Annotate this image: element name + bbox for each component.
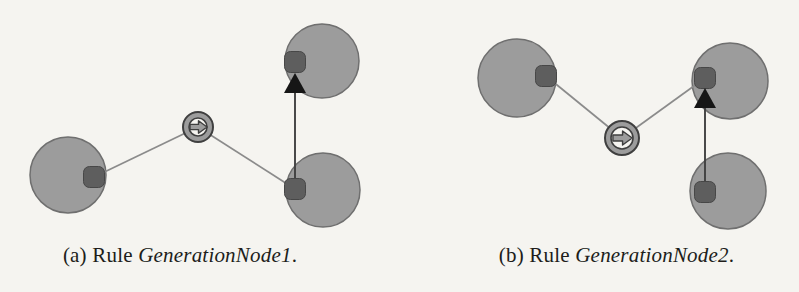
subfigure-b-caption: (b) Rule GenerationNode2. (417, 243, 799, 268)
top-right-node-port (285, 52, 306, 73)
rule-diagram-b (400, 0, 799, 234)
association-edge (94, 127, 198, 177)
association-edge (198, 127, 295, 189)
subfigure-b: (b) Rule GenerationNode2. (400, 0, 799, 268)
caption-b-rule-name: GenerationNode2 (575, 243, 728, 267)
caption-a-rule-name: GenerationNode1 (138, 243, 291, 267)
subfigure-a: (a) Rule GenerationNode1. (0, 0, 400, 268)
bottom-right-node-port (695, 182, 716, 203)
bottom-right-node-port (285, 179, 306, 200)
top-left-node-port (536, 66, 557, 87)
rule-diagram-a (0, 0, 400, 234)
caption-a-period: . (292, 243, 297, 267)
caption-a-label: (a) Rule (63, 243, 138, 267)
caption-b-label: (b) Rule (499, 243, 575, 267)
figure-row: (a) Rule GenerationNode1. (b) Rule Gener… (0, 0, 799, 292)
left-node-port (84, 167, 105, 188)
top-right-node-port (695, 68, 716, 89)
subfigure-a-caption: (a) Rule GenerationNode1. (0, 243, 380, 268)
caption-b-period: . (729, 243, 734, 267)
